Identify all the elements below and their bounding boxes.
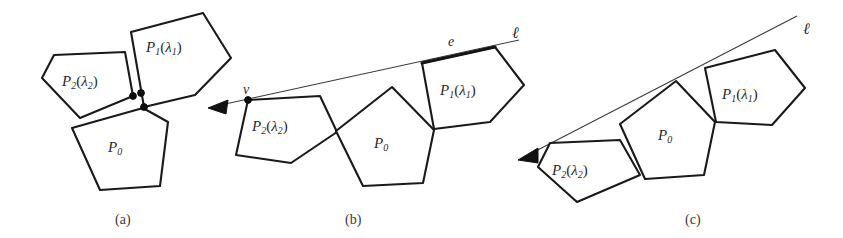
label-p0-b: P0 (374, 136, 388, 153)
label-vertex-v-b: v (243, 82, 249, 98)
caption-b: (b) (345, 212, 361, 228)
label-p0-c: P0 (658, 128, 672, 145)
polygon-p1-a (131, 13, 231, 107)
vertex-dot-a-0 (130, 93, 137, 100)
panel-b (208, 40, 524, 186)
label-p0-a: P0 (108, 140, 122, 157)
label-line-ell-b: ℓ (512, 24, 519, 42)
label-edge-e-b: e (448, 34, 454, 50)
caption-c: (c) (685, 212, 701, 228)
caption-a: (a) (115, 212, 131, 228)
vertex-dot-a-1 (138, 90, 145, 97)
arrowhead-b (208, 100, 228, 114)
label-p2-a: P2(λ2) (62, 74, 98, 91)
vertex-dot-a-2 (141, 104, 148, 111)
arrowhead-c (518, 148, 538, 163)
label-line-ell-c: ℓ (803, 20, 810, 38)
geometry-figure: P2(λ2)P1(λ1)P0(a)P2(λ2)P0P1(λ1)veℓ(b)P2(… (0, 0, 843, 238)
figure-canvas (0, 0, 843, 238)
label-p2-c: P2(λ2) (552, 163, 588, 180)
label-p1-c: P1(λ1) (722, 87, 758, 104)
label-p2-b: P2(λ2) (252, 119, 288, 136)
label-p1-a: P1(λ1) (146, 40, 182, 57)
label-p1-b: P1(λ1) (440, 83, 476, 100)
panel-a (42, 13, 231, 190)
